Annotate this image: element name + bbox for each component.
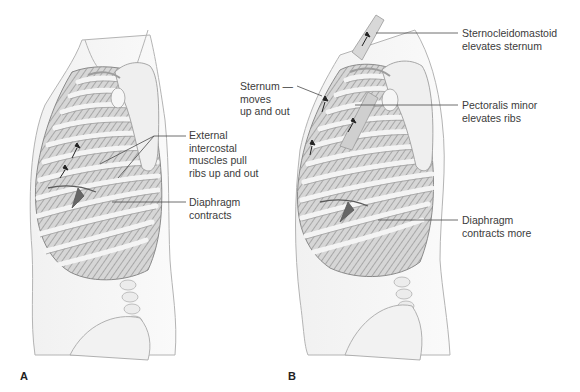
label-sternocleidomastoid: Sternocleidomastoid elevates sternum (462, 27, 557, 52)
panel-letter-a: A (20, 370, 28, 382)
label-external-intercostal: External intercostal muscles pull ribs u… (189, 129, 258, 179)
ribcage-illustration-b (290, 0, 580, 392)
label-diaphragm-contracts-more: Diaphragm contracts more (462, 214, 531, 239)
label-sternum: Sternum — moves up and out (240, 80, 293, 118)
panel-letter-b: B (288, 370, 296, 382)
label-diaphragm-contracts: Diaphragm contracts (189, 196, 240, 221)
ribcage-illustration-a (0, 0, 290, 392)
breathing-muscles-figure: External intercostal muscles pull ribs u… (0, 0, 580, 392)
label-pectoralis-minor: Pectoralis minor elevates ribs (462, 99, 537, 124)
